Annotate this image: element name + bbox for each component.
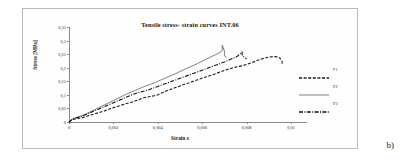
y-tick-label: 0,3: [61, 38, 67, 43]
x-tick-label: 0: [68, 125, 70, 130]
x-tick-label: 0,01: [287, 125, 295, 130]
legend-swatch-f1: [299, 67, 329, 73]
y-axis-title: Stress [MPa]: [32, 40, 38, 70]
x-axis-title: Strain ε: [69, 135, 291, 141]
x-tick-mark: [158, 122, 159, 124]
x-tick-label: 0,002: [108, 125, 118, 130]
legend-label: F3: [333, 101, 338, 106]
legend-label: F1: [333, 67, 338, 72]
y-tick-label: 0: [64, 120, 66, 125]
legend-item-f1[interactable]: F1: [299, 61, 357, 78]
x-tick-mark: [202, 122, 203, 124]
y-tick-label: 0,05: [58, 106, 66, 111]
y-tick-label: 0,2: [61, 65, 67, 70]
legend-item-f3[interactable]: F3: [299, 95, 357, 112]
panel-label: b): [387, 140, 395, 150]
x-tick-label: 0,006: [197, 125, 207, 130]
y-tick-label: 0,35: [58, 25, 66, 30]
legend: F1F2F3: [299, 61, 357, 112]
figure-frame: Tensile stress- strain curves INT.06 Str…: [22, 8, 358, 149]
legend-swatch-f3: [299, 101, 329, 107]
x-tick-mark: [247, 122, 248, 124]
x-tick-mark: [113, 122, 114, 124]
curve-layer: [69, 27, 291, 122]
series-line-f3: [69, 52, 247, 122]
y-tick-label: 0,1: [61, 92, 67, 97]
x-tick-mark: [291, 122, 292, 124]
plot-area: 00,050,10,150,20,250,30,3500,0020,0040,0…: [69, 27, 291, 122]
x-axis-line: [69, 122, 307, 123]
x-tick-label: 0,008: [242, 125, 252, 130]
legend-item-f2[interactable]: F2: [299, 78, 357, 95]
y-tick-label: 0,25: [58, 52, 66, 57]
series-line-f1: [69, 57, 282, 122]
series-line-f2: [69, 45, 227, 122]
y-tick-label: 0,15: [58, 79, 66, 84]
legend-label: F2: [333, 84, 338, 89]
legend-swatch-f2: [299, 84, 329, 90]
x-tick-label: 0,004: [153, 125, 163, 130]
